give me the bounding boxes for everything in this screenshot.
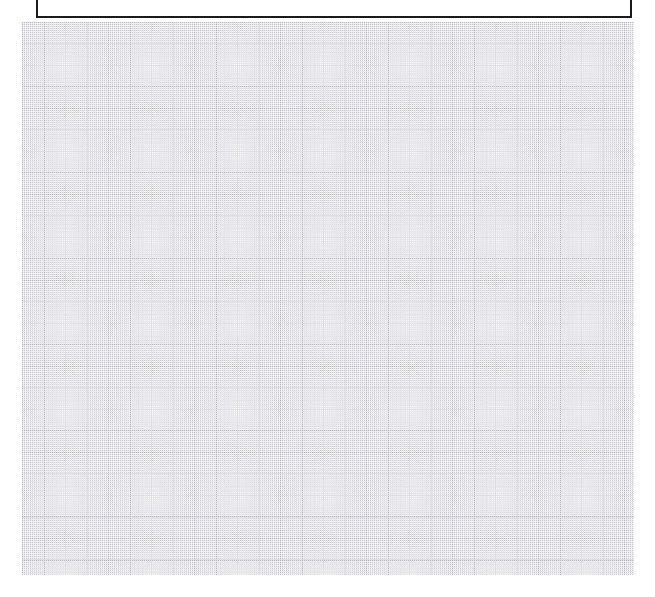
page-canvas [0,0,655,597]
graph-paper-grid [22,22,634,575]
content-box-text[interactable] [38,0,630,16]
empty-content-box[interactable] [36,0,632,18]
grid-dotted-stipple-overlay [22,22,634,575]
grid-major-lines [22,22,634,575]
